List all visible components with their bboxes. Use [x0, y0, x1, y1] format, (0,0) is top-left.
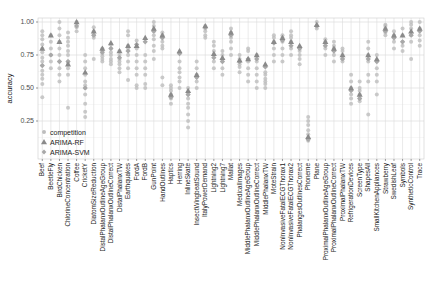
point-arima-rf — [39, 45, 45, 50]
point-competition — [255, 86, 259, 90]
point-competition — [143, 82, 147, 86]
x-tick-label: FordB — [141, 163, 148, 180]
point-competition — [83, 60, 87, 64]
x-tick-label: SmallKitchenAppliances — [373, 163, 381, 232]
point-competition — [375, 79, 379, 83]
point-competition — [349, 97, 353, 101]
point-competition — [375, 66, 379, 70]
x-tick-label: Earthquakes — [124, 163, 132, 199]
x-tick-label: RefrigerationDevices — [347, 163, 355, 222]
point-competition — [401, 49, 405, 53]
point-competition — [40, 82, 44, 86]
point-competition — [323, 53, 327, 57]
x-tick-label: FordA — [133, 162, 140, 180]
point-arima-svm — [400, 39, 405, 44]
point-competition — [178, 86, 182, 90]
point-competition — [280, 53, 284, 57]
point-competition — [238, 53, 242, 57]
legend-label: competition — [50, 129, 86, 137]
point-competition — [135, 73, 139, 77]
x-tick-label: MedicalImages — [236, 163, 244, 206]
point-arima-rf — [357, 92, 363, 97]
point-competition — [83, 110, 87, 114]
point-competition — [57, 27, 61, 31]
point-competition — [40, 50, 44, 54]
point-competition — [40, 77, 44, 81]
point-competition — [66, 106, 70, 110]
point-competition — [366, 73, 370, 77]
point-competition — [332, 60, 336, 64]
x-tick-label: ProximalPhalanxTW — [339, 162, 346, 221]
point-competition — [57, 79, 61, 83]
point-arima-rf — [142, 35, 148, 40]
point-arima-rf — [194, 72, 200, 77]
point-competition — [272, 46, 276, 50]
point-arima-rf — [202, 23, 208, 28]
point-competition — [126, 78, 130, 82]
point-arima-rf — [348, 85, 354, 90]
point-arima-rf — [237, 57, 243, 62]
point-competition — [220, 49, 224, 53]
point-competition — [366, 40, 370, 44]
point-competition — [349, 79, 353, 83]
point-competition — [246, 73, 250, 77]
point-competition — [409, 40, 413, 44]
legend-marker-circle — [42, 130, 46, 134]
point-arima-rf — [159, 32, 165, 37]
x-tick-label: Coffee — [73, 163, 80, 182]
point-competition — [332, 40, 336, 44]
point-arima-rf — [185, 88, 191, 93]
point-competition — [289, 53, 293, 57]
point-arima-svm — [57, 59, 62, 64]
point-arima-rf — [288, 39, 294, 44]
point-competition — [40, 73, 44, 77]
point-arima-rf — [56, 39, 62, 44]
y-tick-label: 0.50 — [20, 84, 34, 91]
x-tick-label: Lightning7 — [219, 163, 227, 193]
point-competition — [306, 123, 310, 127]
point-arima-svm — [40, 63, 45, 68]
point-competition — [49, 60, 53, 64]
point-competition — [298, 57, 302, 61]
point-competition — [178, 66, 182, 70]
point-competition — [229, 46, 233, 50]
point-arima-rf — [262, 61, 268, 66]
point-competition — [418, 38, 422, 42]
point-competition — [409, 57, 413, 61]
x-tick-label: GunPoint — [150, 163, 157, 190]
point-competition — [349, 102, 353, 106]
legend: competition ARIMA-RF ARIMA-SVM — [41, 129, 90, 156]
x-tick-label: InsectWingbeatSound — [193, 163, 201, 226]
point-competition — [246, 66, 250, 70]
point-competition — [263, 77, 267, 81]
legend-label: ARIMA-SVM — [50, 149, 90, 156]
point-competition — [212, 40, 216, 44]
point-competition — [92, 57, 96, 61]
point-arima-svm — [108, 46, 113, 51]
legend-item-arima-svm: ARIMA-SVM — [42, 149, 90, 156]
point-arima-rf — [125, 43, 131, 48]
point-competition — [298, 53, 302, 57]
x-tick-label: Herring — [176, 163, 184, 184]
x-axis: BeefBeetleFlyBirdChickenChlorineConcentr… — [38, 159, 422, 260]
x-tick-label: ItalyPowerDemand — [201, 163, 209, 217]
point-competition — [66, 40, 70, 44]
point-arima-rf — [391, 32, 397, 37]
y-axis-title: accuracy — [5, 73, 14, 103]
point-competition — [195, 86, 199, 90]
point-competition — [143, 66, 147, 70]
point-competition — [220, 66, 224, 70]
point-competition — [186, 126, 190, 130]
point-competition — [49, 46, 53, 50]
x-tick-label: Trace — [416, 163, 423, 180]
point-competition — [289, 29, 293, 33]
point-competition — [143, 53, 147, 57]
point-competition — [229, 40, 233, 44]
point-competition — [186, 106, 190, 110]
point-competition — [255, 66, 259, 70]
point-arima-rf — [82, 69, 88, 74]
point-arima-rf — [365, 52, 371, 57]
y-tick-label: 1.00 — [20, 18, 34, 25]
point-competition — [126, 33, 130, 37]
x-tick-label: MoteStrain — [270, 163, 277, 194]
